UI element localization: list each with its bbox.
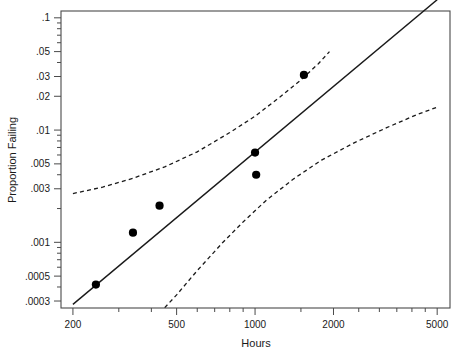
data-point <box>252 171 260 179</box>
y-tick-label: .1 <box>42 12 51 23</box>
data-point <box>155 202 163 210</box>
y-tick-label: .03 <box>36 71 50 82</box>
x-tick-label: 500 <box>168 319 185 330</box>
plot-frame <box>61 11 450 308</box>
y-tick-label: .003 <box>31 183 51 194</box>
data-point <box>129 229 137 237</box>
y-tick-label: .01 <box>36 125 50 136</box>
x-tick-label: 200 <box>65 319 82 330</box>
y-tick-label: .0003 <box>25 296 50 307</box>
data-point <box>251 149 259 157</box>
y-axis-tick-labels: .1.05.03.02.01.005.003.001.0005.0003 <box>25 12 50 306</box>
x-axis-ticks <box>73 308 437 315</box>
x-tick-label: 2000 <box>322 319 345 330</box>
y-tick-label: .05 <box>36 46 50 57</box>
y-tick-label: .005 <box>31 158 51 169</box>
data-point <box>300 71 308 79</box>
data-points <box>92 71 308 289</box>
y-axis-ticks <box>54 18 61 301</box>
chart-plot-area: 200500100020005000 .1.05.03.02.01.005.00… <box>0 0 466 355</box>
x-tick-label: 1000 <box>244 319 267 330</box>
y-tick-label: .0005 <box>25 271 50 282</box>
x-tick-label: 5000 <box>426 319 449 330</box>
data-point <box>92 281 100 289</box>
x-axis-title: Hours <box>241 337 271 349</box>
y-axis-title: Proportion Failing <box>6 117 18 203</box>
chart-container: 200500100020005000 .1.05.03.02.01.005.00… <box>0 0 466 355</box>
lower-confidence-band <box>165 107 437 307</box>
y-tick-label: .02 <box>36 91 50 102</box>
x-axis-tick-labels: 200500100020005000 <box>65 319 449 330</box>
y-tick-label: .001 <box>31 237 51 248</box>
